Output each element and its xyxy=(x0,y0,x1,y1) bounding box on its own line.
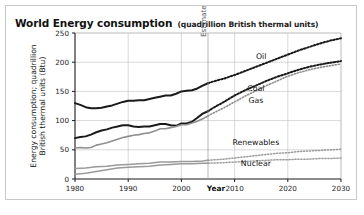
plot-area: 050100150200250 198019902000201020202030… xyxy=(6,6,358,199)
x-tick-label: 2030 xyxy=(332,184,351,193)
series-line-projected xyxy=(208,158,341,163)
y-tick-label: 250 xyxy=(55,29,69,38)
y-tick-label: 50 xyxy=(60,145,70,154)
x-tick-label: 2020 xyxy=(279,184,298,193)
series-line-projected xyxy=(208,38,341,83)
series-line-historical xyxy=(75,163,208,174)
y-tick-label: 0 xyxy=(64,175,69,184)
y-tick-label: 150 xyxy=(55,87,69,96)
series-label-oil: Oil xyxy=(256,52,266,61)
line-chart-svg: 050100150200250 198019902000201020202030… xyxy=(6,6,358,199)
series-label-gas: Gas xyxy=(248,96,263,105)
series-line-projected xyxy=(208,149,341,160)
y-tick-label: 200 xyxy=(55,58,69,67)
series-line-projected xyxy=(208,61,341,111)
x-axis-title: Year xyxy=(206,184,226,193)
x-tick-label: 2010 xyxy=(225,184,244,193)
x-tick-label: 2000 xyxy=(172,184,191,193)
series-label-renewables: Renewables xyxy=(233,138,280,147)
series-label-nuclear: Nuclear xyxy=(241,159,272,168)
series-label-coal: Coal xyxy=(247,84,264,93)
y-axis-title-line2: British thermal units (Btu) xyxy=(38,57,47,156)
estimated-divider-group: Estimated xyxy=(199,6,209,179)
series-labels-group: OilCoalGasRenewablesNuclear xyxy=(233,52,280,168)
y-axis-title-line1: Energy consumption; quadrillion xyxy=(29,44,38,167)
x-tick-label: 1980 xyxy=(66,184,85,193)
chart-figure: World Energy consumption (quadrillion Br… xyxy=(5,5,357,200)
y-ticks-group: 050100150200250 xyxy=(55,29,75,184)
x-tick-label: 1990 xyxy=(119,184,138,193)
estimated-annotation: Estimated xyxy=(199,6,208,37)
y-tick-label: 100 xyxy=(55,116,69,125)
series-line-projected xyxy=(208,64,341,116)
series-line-historical xyxy=(75,83,208,108)
